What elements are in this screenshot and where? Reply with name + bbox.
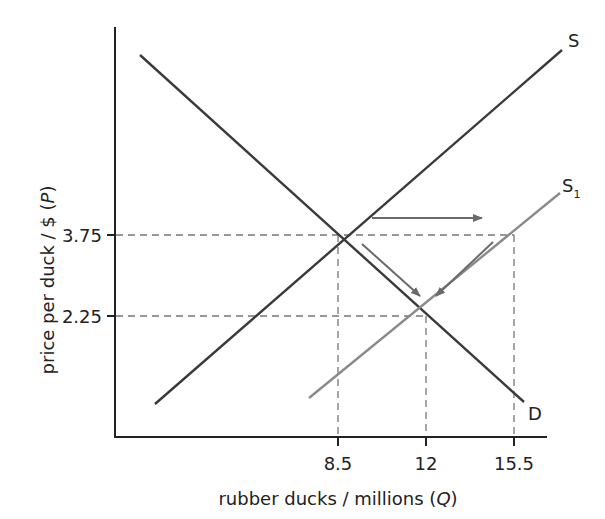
x-tick-label-8.5: 8.5 xyxy=(324,453,353,474)
supply-curve-s1 xyxy=(309,193,560,398)
arrow-along-s1 xyxy=(436,242,493,296)
label-d: D xyxy=(528,403,542,424)
y-tick-label-2.25: 2.25 xyxy=(62,306,102,327)
x-tick-label-15.5: 15.5 xyxy=(494,453,534,474)
supply-curve xyxy=(155,50,562,404)
supply-demand-chart: 3.75 2.25 8.5 12 15.5 S D S1 rubber duck… xyxy=(0,0,605,519)
label-s1: S1 xyxy=(562,175,580,201)
y-axis-title: price per duck / $ (P) xyxy=(37,186,58,375)
shift-arrows xyxy=(362,218,493,296)
x-tick-label-12: 12 xyxy=(415,453,438,474)
label-s: S xyxy=(568,30,579,51)
demand-curve xyxy=(140,55,524,402)
arrow-along-demand xyxy=(362,244,420,296)
x-axis-title: rubber ducks / millions (Q) xyxy=(218,488,457,509)
y-tick-label-3.75: 3.75 xyxy=(62,225,102,246)
